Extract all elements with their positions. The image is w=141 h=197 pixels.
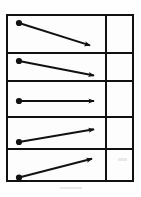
answer-cell-row-1[interactable] [107, 16, 134, 52]
figure-screenshot [0, 0, 141, 197]
vector-cell-row-1[interactable] [8, 16, 105, 52]
scan-speck [60, 187, 82, 189]
arrow-down-steep-icon [8, 16, 105, 52]
vector-cell-row-5[interactable] [8, 150, 105, 180]
arrow-up-shallow-icon [8, 118, 105, 148]
diagram-frame [6, 14, 134, 182]
answer-cell-row-4[interactable] [107, 118, 134, 148]
vector-cell-row-3[interactable] [8, 82, 105, 116]
vector-cell-row-2[interactable] [8, 54, 105, 80]
answer-cell-row-2[interactable] [107, 54, 134, 80]
scan-speck [118, 158, 127, 161]
answer-cell-row-3[interactable] [107, 82, 134, 116]
vector-cell-row-4[interactable] [8, 118, 105, 148]
answer-cell-row-5[interactable] [107, 150, 134, 180]
arrow-down-shallow-icon [8, 54, 105, 80]
arrow-up-steep-icon [8, 150, 105, 180]
arrow-horizontal-icon [8, 82, 105, 116]
